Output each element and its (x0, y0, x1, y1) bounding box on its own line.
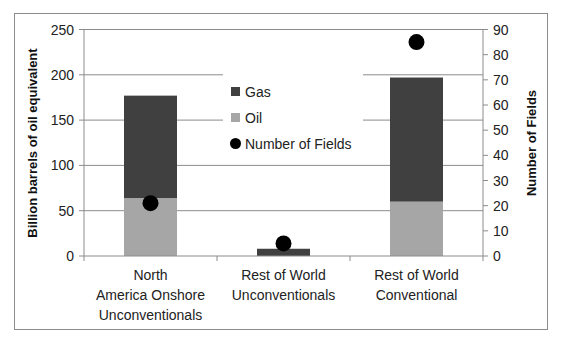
category-label: Conventional (376, 287, 458, 303)
legend-swatch (231, 87, 240, 96)
legend-label: Oil (245, 110, 262, 126)
legend-label: Gas (245, 84, 271, 100)
y-axis-title: Billion barrels of oil equivalent (25, 48, 40, 238)
left-tick-label: 0 (66, 248, 74, 264)
left-tick-label: 200 (51, 67, 75, 83)
category-label: America Onshore (96, 287, 205, 303)
bar-gas (124, 96, 177, 198)
right-tick-label: 80 (493, 47, 509, 63)
chart-svg: 0501001502002500102030405060708090NorthA… (0, 0, 561, 345)
field-count-marker (409, 34, 425, 50)
category-label: Rest of World (374, 267, 459, 283)
right-tick-label: 10 (493, 223, 509, 239)
legend-swatch (231, 113, 240, 122)
right-tick-label: 60 (493, 97, 509, 113)
left-tick-label: 50 (58, 203, 74, 219)
category-label: Unconventionals (232, 287, 336, 303)
right-tick-label: 20 (493, 198, 509, 214)
y2-axis-title: Number of Fields (524, 90, 539, 196)
category-label: Rest of World (241, 267, 326, 283)
right-tick-label: 90 (493, 22, 509, 38)
field-count-marker (276, 235, 292, 251)
right-tick-label: 70 (493, 72, 509, 88)
category-label: North (133, 267, 167, 283)
right-tick-label: 50 (493, 122, 509, 138)
bar-gas (390, 78, 443, 202)
left-tick-label: 100 (51, 157, 75, 173)
legend-swatch (230, 138, 241, 149)
left-tick-label: 150 (51, 112, 75, 128)
field-count-marker (143, 195, 159, 211)
legend-label: Number of Fields (245, 136, 352, 152)
right-tick-label: 30 (493, 173, 509, 189)
category-label: Unconventionals (99, 307, 203, 323)
right-tick-label: 40 (493, 147, 509, 163)
bar-oil (390, 202, 443, 256)
left-tick-label: 250 (51, 22, 75, 38)
right-tick-label: 0 (493, 248, 501, 264)
